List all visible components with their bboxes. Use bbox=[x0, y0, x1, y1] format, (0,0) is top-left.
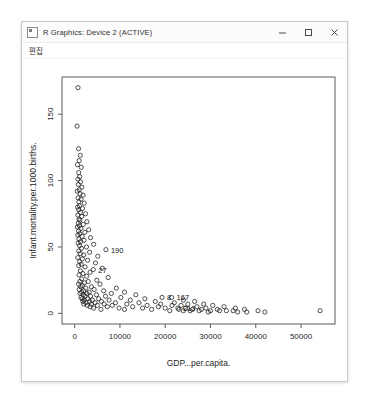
data-point bbox=[83, 265, 87, 269]
data-point bbox=[92, 287, 96, 291]
data-point bbox=[242, 307, 246, 311]
x-axis-tick-label: 20000 bbox=[154, 332, 177, 341]
r-graphics-window: R Graphics: Device 2 (ACTIVE) bbox=[21, 21, 348, 382]
data-point bbox=[85, 258, 89, 262]
data-point bbox=[233, 306, 237, 310]
data-point bbox=[78, 269, 82, 273]
data-point bbox=[85, 274, 89, 278]
close-icon[interactable] bbox=[321, 22, 347, 43]
data-point bbox=[81, 222, 85, 226]
data-point bbox=[211, 303, 215, 307]
point-annotation: 27 bbox=[98, 266, 106, 275]
data-point bbox=[125, 302, 129, 306]
data-point bbox=[88, 236, 92, 240]
data-point bbox=[236, 310, 240, 314]
data-point bbox=[92, 242, 96, 246]
x-axis-tick-label: 50000 bbox=[290, 332, 313, 341]
data-point bbox=[150, 307, 154, 311]
data-point bbox=[77, 159, 81, 163]
data-point bbox=[163, 306, 167, 310]
data-point bbox=[92, 306, 96, 310]
data-point bbox=[76, 256, 80, 260]
data-point bbox=[80, 214, 84, 218]
maximize-icon[interactable] bbox=[295, 22, 321, 43]
minimize-icon[interactable] bbox=[269, 22, 295, 43]
data-point bbox=[97, 297, 101, 301]
plot-frame bbox=[62, 77, 335, 324]
data-point bbox=[84, 245, 88, 249]
data-point bbox=[88, 270, 92, 274]
data-point bbox=[75, 163, 79, 167]
data-point bbox=[77, 171, 81, 175]
data-point bbox=[77, 273, 81, 277]
x-axis-tick-label: 40000 bbox=[245, 332, 268, 341]
point-annotation: 190 bbox=[111, 246, 124, 255]
data-point bbox=[99, 299, 103, 303]
data-point bbox=[83, 230, 87, 234]
x-axis-tick-label: 0 bbox=[72, 332, 77, 341]
data-point bbox=[75, 124, 79, 128]
data-point bbox=[159, 302, 163, 306]
data-point bbox=[83, 212, 87, 216]
data-point bbox=[168, 309, 172, 313]
data-point bbox=[80, 257, 84, 261]
y-axis-tick-label: 150 bbox=[46, 107, 55, 121]
point-annotation: 167 bbox=[177, 293, 190, 302]
screen-root: R Graphics: Device 2 (ACTIVE) bbox=[0, 0, 369, 404]
data-point bbox=[204, 306, 208, 310]
y-axis-tick-label: 50 bbox=[46, 242, 55, 251]
data-point bbox=[195, 305, 199, 309]
data-point bbox=[153, 299, 157, 303]
data-point bbox=[110, 303, 114, 307]
x-axis-tick-label: 10000 bbox=[109, 332, 132, 341]
data-point bbox=[88, 250, 92, 254]
data-point bbox=[94, 293, 98, 297]
data-point bbox=[140, 306, 144, 310]
data-point bbox=[76, 86, 80, 90]
y-axis-tick-label: 100 bbox=[46, 173, 55, 187]
window-title: R Graphics: Device 2 (ACTIVE) bbox=[43, 28, 152, 37]
plot-canvas: 01000020000300004000050000050100150GDP..… bbox=[22, 59, 347, 381]
data-point bbox=[128, 298, 132, 302]
data-point bbox=[103, 294, 107, 298]
data-point bbox=[122, 307, 126, 311]
data-point bbox=[160, 295, 164, 299]
data-point bbox=[145, 303, 149, 307]
data-point bbox=[114, 286, 118, 290]
data-point bbox=[95, 278, 99, 282]
data-point bbox=[256, 309, 260, 313]
data-point bbox=[77, 229, 81, 233]
data-point bbox=[98, 282, 102, 286]
data-point bbox=[107, 298, 111, 302]
data-point bbox=[105, 305, 109, 309]
data-point bbox=[122, 290, 126, 294]
data-point bbox=[106, 275, 110, 279]
data-point bbox=[102, 289, 106, 293]
menu-item-edit[interactable]: 편집 bbox=[26, 45, 46, 56]
data-point bbox=[170, 303, 174, 307]
data-point bbox=[156, 305, 160, 309]
data-point bbox=[76, 147, 80, 151]
data-point bbox=[193, 299, 197, 303]
data-point bbox=[96, 254, 100, 258]
data-point bbox=[177, 307, 181, 311]
data-point bbox=[93, 261, 97, 265]
data-point bbox=[131, 305, 135, 309]
data-point bbox=[134, 293, 138, 297]
data-point bbox=[99, 307, 103, 311]
data-point bbox=[87, 228, 91, 232]
data-point bbox=[224, 309, 228, 313]
y-axis-title: Infant.mortality.per.1000.births. bbox=[28, 142, 38, 258]
window-titlebar[interactable]: R Graphics: Device 2 (ACTIVE) bbox=[22, 22, 347, 43]
data-point bbox=[318, 309, 322, 313]
data-point bbox=[263, 310, 267, 314]
data-point bbox=[143, 297, 147, 301]
data-point bbox=[78, 153, 82, 157]
data-point bbox=[88, 294, 92, 298]
data-point bbox=[104, 248, 108, 252]
data-point bbox=[79, 165, 83, 169]
data-point bbox=[222, 305, 226, 309]
data-point bbox=[82, 201, 86, 205]
data-point bbox=[77, 263, 81, 267]
data-point bbox=[137, 301, 141, 305]
